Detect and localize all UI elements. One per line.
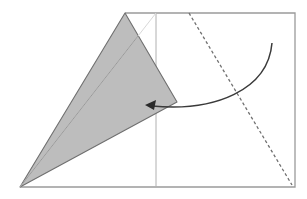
origami-diagram <box>0 0 307 199</box>
shaded-triangular-flap <box>20 13 177 187</box>
valley-fold-line <box>189 13 292 185</box>
diagram-svg <box>0 0 307 199</box>
